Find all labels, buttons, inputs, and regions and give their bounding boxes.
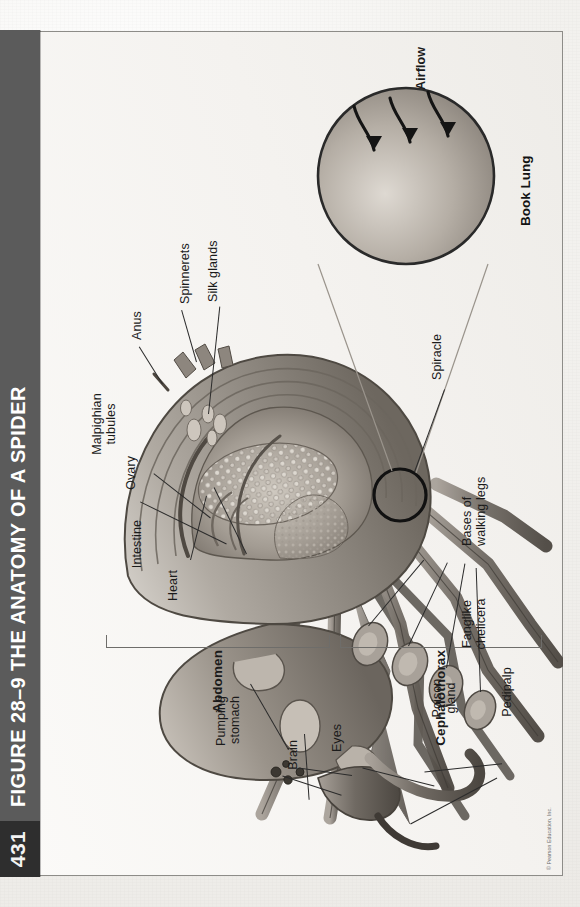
label-heart: Heart xyxy=(166,570,180,601)
label-anus: Anus xyxy=(130,311,144,340)
label-pedipalp: Pedipalp xyxy=(500,667,514,716)
label-spinnerets: Spinnerets xyxy=(178,243,192,304)
label-spiracle: Spiracle xyxy=(430,334,444,380)
label-silk-glands: Silk glands xyxy=(206,240,220,302)
figure-stage: 431 FIGURE 28–9 THE ANATOMY OF A SPIDER xyxy=(18,31,563,876)
label-pumping-stomach: Pumping stomach xyxy=(214,696,242,746)
label-ovary: Ovary xyxy=(124,456,138,490)
label-brain: Brain xyxy=(286,740,300,770)
publisher-credit: © Pearson Education, Inc. xyxy=(546,807,552,870)
label-bases-of-walking-legs: Bases of walking legs xyxy=(460,477,488,546)
label-eyes: Eyes xyxy=(330,724,344,752)
inset-title-book-lung: Book Lung xyxy=(518,156,533,227)
label-fanglike-chelicera: Fanglike chelicera xyxy=(460,599,488,650)
inset-label-airflow: Airflow xyxy=(414,47,428,90)
label-poison-gland: Poison gland xyxy=(430,679,458,718)
bracket-abdomen xyxy=(106,635,330,648)
bracket-cephalothorax xyxy=(340,635,542,648)
label-malpighian-tubules: Malpighian tubules xyxy=(90,393,118,454)
label-intestine: Intestine xyxy=(130,520,144,568)
